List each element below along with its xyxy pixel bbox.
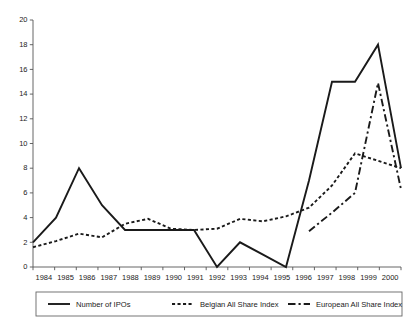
x-axis-tick-label: 1989	[144, 273, 161, 282]
x-axis-tick-label: 1988	[122, 273, 139, 282]
legend-item[interactable]: European All Share Index	[288, 300, 402, 309]
x-axis-tick-label: 1986	[79, 273, 96, 282]
x-axis-tick-label: 1995	[274, 273, 291, 282]
x-axis-tick-label: 1994	[252, 273, 269, 282]
legend-item[interactable]: Belgian All Share Index	[172, 300, 279, 309]
x-axis-tick-label: 1987	[100, 273, 117, 282]
x-axis-tick-label: 1997	[317, 273, 334, 282]
legend-label: Number of IPOs	[76, 300, 131, 309]
y-axis: 02468101214161820	[19, 15, 33, 271]
x-axis-tick-label: 1990	[165, 273, 182, 282]
x-axis: 1984198519861987198819891990199119921993…	[33, 267, 401, 282]
x-axis-tick-label: 1996	[295, 273, 312, 282]
x-axis-tick-label: 2000	[382, 273, 399, 282]
y-axis-tick-label: 10	[19, 139, 27, 148]
chart-legend: Number of IPOsBelgian All Share IndexEur…	[36, 292, 402, 316]
legend-label: Belgian All Share Index	[200, 300, 279, 309]
x-axis-tick-label: 1998	[339, 273, 356, 282]
y-axis-tick-label: 16	[19, 65, 27, 74]
y-axis-tick-label: 8	[23, 163, 27, 172]
chart-container: 02468101214161820 1984198519861987198819…	[0, 0, 415, 321]
y-axis-tick-label: 14	[19, 89, 27, 98]
y-axis-tick-label: 12	[19, 114, 27, 123]
ipo-line-chart: 02468101214161820 1984198519861987198819…	[0, 0, 415, 321]
y-axis-tick-label: 6	[23, 188, 27, 197]
x-axis-tick-label: 1985	[57, 273, 74, 282]
x-axis-tick-label: 1999	[360, 273, 377, 282]
y-axis-tick-label: 18	[19, 40, 27, 49]
plot-series-group	[33, 45, 401, 267]
y-axis-tick-label: 0	[23, 262, 27, 271]
legend-item[interactable]: Number of IPOs	[48, 300, 131, 309]
series-line-number-of-ipos	[33, 45, 401, 267]
y-axis-tick-label: 2	[23, 238, 27, 247]
legend-label: European All Share Index	[316, 300, 402, 309]
x-axis-tick-label: 1993	[230, 273, 247, 282]
x-axis-tick-label: 1991	[187, 273, 204, 282]
x-axis-tick-label: 1992	[209, 273, 226, 282]
x-axis-tick-label: 1984	[35, 273, 52, 282]
series-line-european-all-share-index	[309, 83, 401, 231]
y-axis-tick-label: 4	[23, 213, 27, 222]
y-axis-tick-label: 20	[19, 15, 27, 24]
